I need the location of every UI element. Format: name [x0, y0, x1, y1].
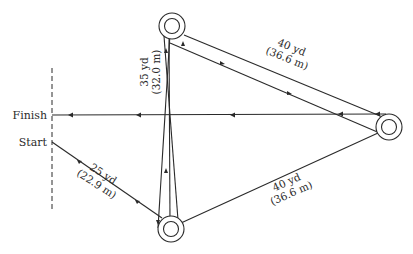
svg-text:(32.0 m): (32.0 m) — [150, 50, 162, 95]
top-cone — [159, 13, 185, 39]
arrow-icon — [220, 61, 225, 65]
segment-label-top-right: 40 yd (36.6 m) — [264, 33, 315, 72]
arrow-icon — [375, 112, 380, 117]
segment-label-bottom-top: 35 yd (32.0 m) — [138, 50, 162, 95]
arrow-icon — [68, 113, 73, 118]
arrow-icon — [136, 113, 141, 118]
bottom-cone — [158, 216, 184, 242]
right-cone — [376, 114, 402, 140]
path-right-to-finish — [52, 114, 386, 115]
finish-label: Finish — [13, 109, 47, 122]
course-diagram: Finish Start 25 yd (22.9 m) 35 yd (32.0 … — [0, 0, 413, 254]
arrow-icon — [164, 168, 168, 173]
svg-text:35 yd: 35 yd — [138, 57, 150, 87]
path-top-to-bottom-c — [164, 36, 178, 220]
start-label: Start — [19, 136, 48, 149]
path-bottom-to-top-b — [169, 34, 170, 223]
arrow-icon — [230, 113, 235, 118]
arrow-icon — [287, 91, 292, 95]
segment-label-right-bottom: 40 yd (36.6 m) — [263, 167, 314, 207]
arrow-icon — [181, 41, 185, 46]
